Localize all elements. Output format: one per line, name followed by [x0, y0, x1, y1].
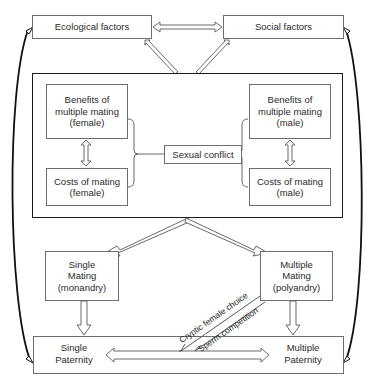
- arrow-panel-to-ecological: [145, 40, 178, 74]
- arrow-panel-to-multiple-mating: [185, 218, 268, 256]
- single-mating-label: Single Mating (monandry): [54, 259, 110, 294]
- benefits-male-box: Benefits of multiple mating (male): [249, 84, 331, 139]
- costs-female-label: Costs of mating (female): [53, 176, 121, 199]
- benefits-female-box: Benefits of multiple mating (female): [46, 84, 128, 139]
- ecological-factors-label: Ecological factors: [55, 21, 129, 33]
- costs-male-box: Costs of mating (male): [249, 168, 331, 206]
- arrow-panel-to-social: [196, 40, 229, 74]
- feedback-arc-left: [12, 30, 30, 360]
- costs-male-label: Costs of mating (male): [256, 176, 324, 199]
- feedback-arrowhead-right-top: [343, 27, 350, 34]
- multiple-mating-box: Multiple Mating (polyandry): [260, 251, 333, 301]
- social-factors-box: Social factors: [223, 15, 344, 39]
- costs-female-box: Costs of mating (female): [46, 168, 128, 206]
- feedback-arrowhead-left-bottom: [26, 356, 33, 363]
- social-factors-label: Social factors: [255, 21, 312, 33]
- multiple-paternity-label: Multiple Paternity: [278, 342, 328, 365]
- sexual-conflict-box: Sexual conflict: [164, 145, 242, 164]
- single-paternity-text: Single Paternity: [55, 342, 93, 365]
- multiple-paternity-text: Multiple Paternity: [284, 342, 322, 365]
- benefits-female-label: Benefits of multiple mating (female): [51, 94, 123, 129]
- ecological-factors-box: Ecological factors: [32, 15, 152, 39]
- sexual-conflict-label: Sexual conflict: [172, 149, 233, 161]
- multiple-mating-label: Multiple Mating (polyandry): [265, 259, 328, 294]
- feedback-arc-right: [346, 30, 362, 360]
- single-paternity-label: Single Paternity: [52, 342, 96, 365]
- feedback-arrowhead-right-bottom: [343, 356, 350, 363]
- arrow-multiple-mating-to-paternity: [286, 301, 300, 335]
- double-arrow-eco-social: [153, 22, 222, 32]
- single-mating-box: Single Mating (monandry): [45, 251, 119, 301]
- benefits-male-label: Benefits of multiple mating (male): [254, 94, 326, 129]
- arrow-single-mating-to-paternity: [77, 301, 91, 335]
